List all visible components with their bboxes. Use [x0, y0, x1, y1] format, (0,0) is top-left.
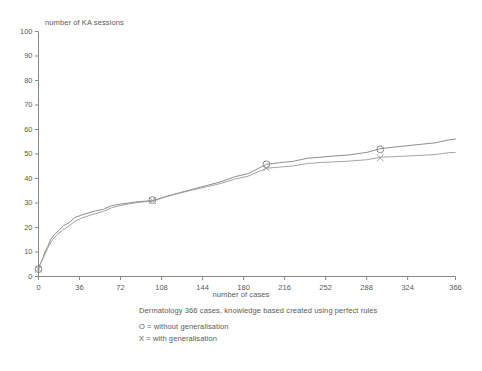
y-tick-label: 70	[9, 100, 33, 109]
y-tick-label: 50	[9, 149, 33, 158]
chart-figure: number of KA sessions number of cases 01…	[0, 0, 482, 371]
x-tick-label: 72	[106, 283, 136, 292]
x-tick-label: 252	[311, 283, 341, 292]
x-tick-label: 288	[352, 283, 382, 292]
x-tick-label: 0	[24, 283, 54, 292]
x-tick-label: 144	[188, 283, 218, 292]
y-tick-label: 40	[9, 174, 33, 183]
y-tick-label: 100	[9, 27, 33, 36]
x-tick-label: 216	[270, 283, 300, 292]
y-tick-label: 80	[9, 76, 33, 85]
y-tick-label: 0	[9, 272, 33, 281]
y-tick-label: 20	[9, 223, 33, 232]
series-lines	[38, 139, 455, 269]
y-tick-label: 30	[9, 198, 33, 207]
x-tick-label: 180	[229, 283, 259, 292]
tick-marks	[35, 32, 456, 281]
legend-entry-without-generalisation: O = without generalisation	[139, 322, 469, 331]
legend-entry-with-generalisation: X = with generalisation	[139, 334, 469, 343]
x-tick-label: 108	[147, 283, 177, 292]
y-tick-label: 10	[9, 247, 33, 256]
y-axis-title: number of KA sessions	[45, 18, 124, 27]
series-markers	[35, 146, 384, 273]
y-tick-label: 90	[9, 51, 33, 60]
y-tick-label: 60	[9, 125, 33, 134]
x-tick-label: 36	[65, 283, 95, 292]
x-tick-label: 366	[441, 283, 471, 292]
x-tick-label: 324	[393, 283, 423, 292]
axis-lines	[39, 32, 456, 277]
chart-caption: Dermatology 366 cases, knowledge based c…	[139, 306, 469, 315]
chart-caption-block: Dermatology 366 cases, knowledge based c…	[139, 306, 469, 346]
